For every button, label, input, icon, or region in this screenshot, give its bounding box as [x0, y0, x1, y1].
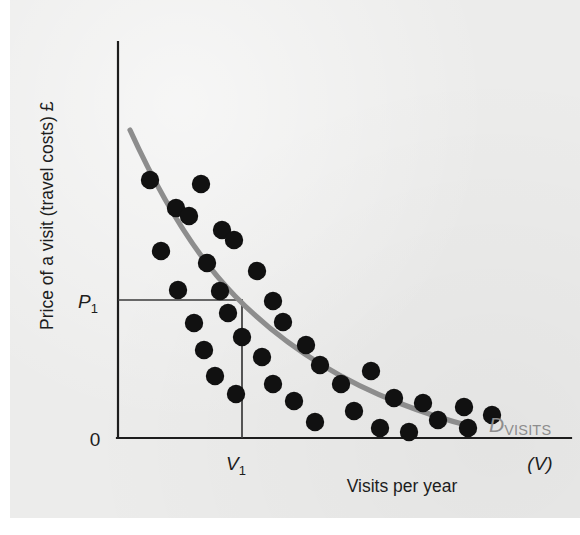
price-tick-subscript: 1 — [91, 301, 98, 316]
data-point — [385, 389, 403, 407]
data-point — [192, 175, 210, 193]
data-point — [455, 398, 473, 416]
figure-root: Price of a visit (travel costs) £ 0 P1 V… — [0, 0, 580, 535]
data-point — [225, 231, 243, 249]
data-point — [233, 328, 251, 346]
data-point — [264, 292, 282, 310]
origin-label: 0 — [90, 429, 101, 450]
demand-curve-plot: Price of a visit (travel costs) £ 0 P1 V… — [0, 0, 580, 535]
svg-text:P1: P1 — [78, 291, 98, 316]
data-point — [253, 348, 271, 366]
data-point — [274, 313, 292, 331]
price-tick-label: P1 — [78, 291, 98, 316]
data-point — [285, 392, 303, 410]
data-point — [195, 341, 213, 359]
data-point — [141, 171, 159, 189]
data-point — [198, 254, 216, 272]
data-point — [206, 367, 224, 385]
scatter-point-group — [141, 171, 501, 441]
demand-curve-label: DVISITS — [489, 413, 551, 438]
data-point — [371, 419, 389, 437]
data-point — [429, 411, 447, 429]
data-point — [180, 207, 198, 225]
svg-text:DVISITS: DVISITS — [489, 413, 551, 438]
demand-curve-label-main: D — [489, 413, 504, 436]
data-point — [219, 304, 237, 322]
data-point — [169, 281, 187, 299]
data-point — [400, 423, 418, 441]
data-point — [459, 419, 477, 437]
data-point — [248, 262, 266, 280]
data-point — [332, 375, 350, 393]
svg-text:V1: V1 — [226, 453, 246, 478]
data-point — [345, 402, 363, 420]
data-point — [311, 356, 329, 374]
data-point — [152, 242, 170, 260]
quantity-tick-label: V1 — [226, 453, 246, 478]
data-point — [362, 362, 380, 380]
data-point — [227, 385, 245, 403]
x-axis-title: Visits per year — [347, 476, 458, 496]
demand-curve-dvisits — [130, 130, 470, 426]
data-point — [297, 336, 315, 354]
x-variable-label: (V) — [527, 453, 552, 474]
data-point — [414, 394, 432, 412]
data-point — [264, 375, 282, 393]
quantity-tick-subscript: 1 — [239, 463, 246, 478]
y-axis-title: Price of a visit (travel costs) £ — [37, 101, 57, 330]
price-tick-symbol: P — [78, 291, 91, 312]
demand-curve-label-sub: VISITS — [504, 422, 551, 438]
data-point — [185, 314, 203, 332]
data-point — [306, 413, 324, 431]
data-point — [211, 282, 229, 300]
